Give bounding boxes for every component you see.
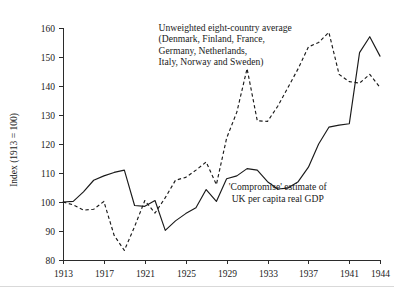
x-tick-label: 1929 [218,269,237,279]
y-tick-label: 90 [46,227,56,237]
annotation-uk-gdp-label: 'Compromise' estimate ofUK per capita re… [229,181,328,203]
line-chart-svg: 8090100110120130140150160 19131917192119… [0,0,394,303]
annotation-line: UK per capita real GDP [232,193,324,204]
x-tick-label: 1944 [371,269,390,279]
annotation-eight-country-label: Unweighted eight-country average(Denmark… [159,22,292,68]
y-tick-group: 8090100110120130140150160 [41,24,63,266]
chart-figure: 8090100110120130140150160 19131917192119… [0,0,394,303]
annotation-line: Italy, Norway and Sweden) [159,56,264,68]
y-tick-label: 130 [41,111,56,121]
x-tick-label: 1925 [177,269,196,279]
y-tick-label: 110 [41,169,55,179]
annotation-line: Germany, Netherlands, [159,45,248,56]
annotation-line: (Denmark, Finland, France, [159,33,265,45]
annotation-line: 'Compromise' estimate of [229,181,328,192]
x-tick-group: 191319171921192519291933193719411944 [54,260,390,279]
y-tick-label: 150 [41,53,56,63]
x-tick-label: 1941 [340,269,359,279]
y-tick-label: 100 [41,198,56,208]
annotation-line: Unweighted eight-country average [159,22,292,33]
x-tick-label: 1921 [136,269,155,279]
y-tick-label: 80 [46,256,56,266]
x-tick-label: 1937 [299,269,318,279]
x-tick-label: 1917 [95,269,114,279]
x-tick-label: 1933 [259,269,278,279]
y-axis-title: Index (1913 = 100) [9,113,20,187]
y-tick-label: 140 [41,82,56,92]
y-tick-label: 160 [41,24,56,34]
x-tick-label: 1913 [54,269,73,279]
y-tick-label: 120 [41,140,56,150]
